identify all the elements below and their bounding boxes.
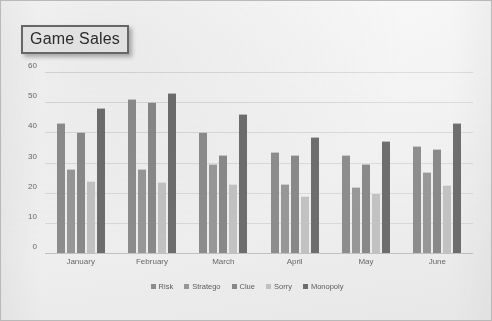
legend-swatch-icon xyxy=(303,284,308,289)
legend-label: Risk xyxy=(159,282,174,291)
bar xyxy=(148,102,156,253)
bar xyxy=(57,123,65,253)
bar xyxy=(271,152,279,253)
x-axis-tick-label: March xyxy=(188,257,259,266)
y-axis-tick-labels: 6050403020100 xyxy=(1,65,41,255)
x-axis-tick-label: January xyxy=(45,257,116,266)
bar-group xyxy=(402,72,473,253)
bar xyxy=(291,155,299,253)
bar xyxy=(382,141,390,253)
chart-figure: Game Sales 6050403020100 JanuaryFebruary… xyxy=(0,0,492,321)
legend-item: Stratego xyxy=(184,282,220,291)
legend-item: Monopoly xyxy=(303,282,344,291)
chart-legend: RiskStrategoClueSorryMonopoly xyxy=(1,282,492,291)
bar xyxy=(362,164,370,253)
y-axis-tick-label: 60 xyxy=(28,61,37,70)
axis-baseline xyxy=(45,253,473,254)
x-axis-tick-labels: JanuaryFebruaryMarchAprilMayJune xyxy=(45,257,473,266)
bar-groups xyxy=(45,72,473,253)
bar-group xyxy=(45,72,116,253)
x-axis-tick-label: February xyxy=(116,257,187,266)
bar-group xyxy=(330,72,401,253)
bar xyxy=(301,196,309,253)
bar xyxy=(423,172,431,253)
legend-item: Clue xyxy=(232,282,255,291)
bar xyxy=(128,99,136,253)
legend-swatch-icon xyxy=(151,284,156,289)
bar xyxy=(433,149,441,253)
bar xyxy=(67,169,75,253)
bar xyxy=(77,132,85,253)
x-axis-tick-label: May xyxy=(330,257,401,266)
legend-item: Sorry xyxy=(266,282,292,291)
chart-title: Game Sales xyxy=(21,25,129,54)
legend-label: Stratego xyxy=(192,282,220,291)
bar xyxy=(219,155,227,253)
legend-item: Risk xyxy=(151,282,174,291)
y-axis-tick-label: 40 xyxy=(28,121,37,130)
legend-label: Monopoly xyxy=(311,282,344,291)
legend-swatch-icon xyxy=(266,284,271,289)
bar xyxy=(168,93,176,253)
x-axis-tick-label: April xyxy=(259,257,330,266)
y-axis-tick-label: 20 xyxy=(28,181,37,190)
bar xyxy=(158,182,166,253)
legend-swatch-icon xyxy=(232,284,237,289)
bar xyxy=(311,137,319,253)
bar xyxy=(413,146,421,253)
bar xyxy=(453,123,461,253)
bar xyxy=(97,108,105,253)
bar-group xyxy=(116,72,187,253)
bar xyxy=(239,114,247,253)
legend-swatch-icon xyxy=(184,284,189,289)
bar xyxy=(87,181,95,253)
y-axis-tick-label: 10 xyxy=(28,211,37,220)
x-axis-tick-label: June xyxy=(402,257,473,266)
bar-group xyxy=(188,72,259,253)
legend-label: Clue xyxy=(240,282,255,291)
y-axis-tick-label: 50 xyxy=(28,91,37,100)
bar xyxy=(342,155,350,253)
bar xyxy=(229,184,237,253)
bar xyxy=(443,185,451,253)
y-axis-tick-label: 30 xyxy=(28,151,37,160)
bar xyxy=(138,169,146,253)
bar xyxy=(372,193,380,253)
bar-group xyxy=(259,72,330,253)
legend-label: Sorry xyxy=(274,282,292,291)
plot-area xyxy=(45,72,473,253)
y-axis-tick-label: 0 xyxy=(33,242,37,251)
bar xyxy=(209,164,217,253)
bar xyxy=(281,184,289,253)
bar xyxy=(352,187,360,253)
bar xyxy=(199,132,207,253)
